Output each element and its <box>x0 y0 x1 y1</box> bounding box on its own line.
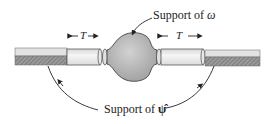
left-psi-arrowhead <box>59 81 63 86</box>
omega-support-label: Support of ω <box>153 8 215 23</box>
left-tube-segment <box>67 49 108 65</box>
psi-support-label: Support of ψ̂ <box>104 102 166 117</box>
psi-hat-symbol: ψ̂ <box>158 102 166 116</box>
right-psi-arrow <box>166 66 214 108</box>
right-tube-segment <box>157 49 206 65</box>
left-t-label: T <box>80 29 86 41</box>
right-t-label: T <box>176 29 182 41</box>
left-outer-rod <box>15 48 67 65</box>
omega-label-text: Support of <box>153 8 207 22</box>
right-psi-arrowhead <box>197 85 201 88</box>
right-outer-rod <box>205 50 260 66</box>
omega-symbol: ω <box>207 8 215 22</box>
left-psi-arrow <box>48 66 98 110</box>
central-bulb <box>107 33 157 82</box>
psi-label-text: Support of <box>104 102 158 116</box>
omega-pointer-arrow <box>133 18 152 33</box>
